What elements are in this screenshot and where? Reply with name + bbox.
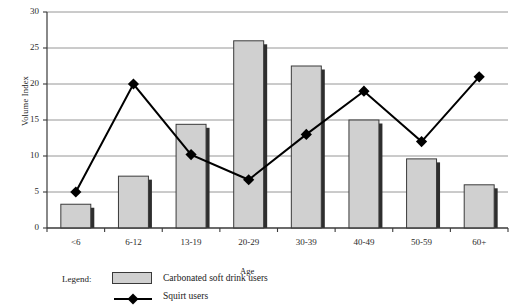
- bar: [407, 159, 437, 228]
- legend-bar-swatch: [112, 272, 152, 284]
- x-tick-label: 40-49: [334, 237, 394, 247]
- y-tick-label: 20: [13, 78, 39, 88]
- y-tick-label: 10: [13, 150, 39, 160]
- x-tick-label: 60+: [449, 237, 509, 247]
- legend-line-swatch: [112, 293, 154, 305]
- bar: [291, 66, 321, 228]
- y-tick-label: 25: [13, 42, 39, 52]
- x-tick-label: 13-19: [161, 237, 221, 247]
- legend-line-label: Squirt users: [163, 291, 208, 301]
- y-tick-label: 0: [13, 222, 39, 232]
- x-tick-label: <6: [46, 237, 106, 247]
- bar: [464, 185, 494, 228]
- x-tick-label: 30-39: [276, 237, 336, 247]
- bar: [234, 41, 264, 228]
- chart-legend: Legend: Carbonated soft drink users Squi…: [0, 272, 519, 308]
- bar: [61, 204, 91, 228]
- legend-bar-label: Carbonated soft drink users: [163, 273, 268, 283]
- y-tick-label: 30: [13, 6, 39, 16]
- y-tick-label: 15: [13, 114, 39, 124]
- bar-series: [61, 41, 498, 228]
- bar: [118, 176, 148, 228]
- x-tick-label: 50-59: [392, 237, 452, 247]
- legend-title: Legend:: [62, 274, 92, 284]
- chart-figure: Volume Index Age 051015202530 <66-1213-1…: [0, 0, 519, 308]
- x-tick-label: 20-29: [219, 237, 279, 247]
- y-tick-label: 5: [13, 186, 39, 196]
- x-tick-label: 6-12: [103, 237, 163, 247]
- chart-plot-area: [0, 0, 519, 308]
- bar: [349, 120, 379, 228]
- bar: [176, 124, 206, 228]
- line-marker: [70, 186, 81, 197]
